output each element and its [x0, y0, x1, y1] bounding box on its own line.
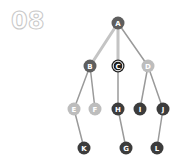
node-f[interactable]: F — [89, 103, 102, 116]
edge-b-e — [74, 66, 90, 109]
node-l[interactable]: L — [151, 142, 164, 155]
node-label: I — [139, 106, 142, 114]
node-label: L — [155, 145, 160, 153]
node-e[interactable]: E — [68, 103, 81, 116]
node-d[interactable]: D — [142, 60, 155, 73]
edge-a-b — [90, 23, 118, 66]
node-g[interactable]: G — [120, 142, 133, 155]
edge-a-d — [118, 23, 148, 66]
node-label: B — [87, 63, 92, 71]
node-h[interactable]: H — [112, 103, 125, 116]
node-label: J — [161, 106, 165, 114]
node-label: D — [145, 63, 151, 71]
tree-diagram: ABCDEFHIJKGL — [0, 0, 188, 164]
node-i[interactable]: I — [134, 103, 147, 116]
node-a[interactable]: A — [112, 17, 125, 30]
node-label: H — [115, 106, 121, 114]
node-b[interactable]: B — [84, 60, 97, 73]
node-label: F — [93, 106, 98, 114]
node-c[interactable]: C — [112, 60, 125, 73]
node-k[interactable]: K — [78, 142, 91, 155]
edge-d-i — [140, 66, 148, 109]
node-label: G — [123, 145, 129, 153]
node-label: A — [115, 20, 121, 28]
node-j[interactable]: J — [157, 103, 170, 116]
node-label: C — [115, 63, 120, 71]
edges-layer — [74, 23, 163, 148]
node-label: E — [72, 106, 77, 114]
node-label: K — [81, 145, 87, 153]
edge-d-j — [148, 66, 163, 109]
